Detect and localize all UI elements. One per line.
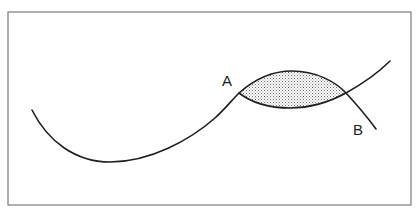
label-point-b: B — [353, 121, 363, 138]
label-point-a: A — [222, 72, 232, 89]
lens-diagram: A B — [0, 0, 417, 211]
diagram-frame — [8, 12, 411, 205]
curve-1 — [32, 61, 390, 162]
